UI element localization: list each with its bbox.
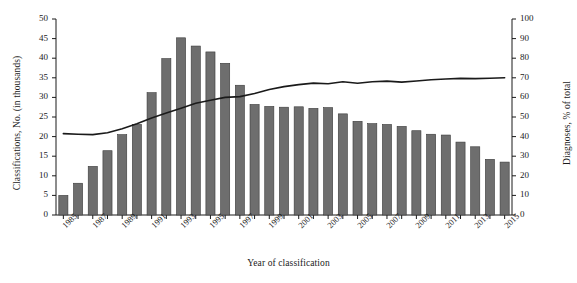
y-axis-left-tick-label: 15 xyxy=(24,150,48,160)
y-axis-right-tick-label: 80 xyxy=(520,52,546,62)
y-axis-left-tick-label: 40 xyxy=(24,52,48,62)
bar xyxy=(382,124,391,215)
bar xyxy=(412,131,421,215)
y-axis-left-tick-label: 35 xyxy=(24,72,48,82)
y-axis-left-tick-label: 45 xyxy=(24,33,48,43)
y-axis-right-tick-label: 20 xyxy=(520,170,546,180)
chart-figure: Classifications, No. (in thousands) Diag… xyxy=(0,0,577,283)
y-axis-left-tick-label: 0 xyxy=(24,209,48,219)
bar xyxy=(368,124,377,215)
bar xyxy=(132,124,141,215)
y-axis-left-tick-label: 50 xyxy=(24,13,48,23)
y-axis-right-tick-label: 30 xyxy=(520,150,546,160)
y-axis-left-tick-label: 20 xyxy=(24,131,48,141)
y-axis-left-title: Classifications, No. (in thousands) xyxy=(12,43,22,203)
bar xyxy=(485,159,494,215)
y-axis-right-tick-label: 90 xyxy=(520,33,546,43)
bar xyxy=(265,106,274,215)
chart-plot-area xyxy=(0,0,577,283)
bar xyxy=(118,135,127,215)
y-axis-right-ticks xyxy=(512,19,516,215)
y-axis-right-tick-label: 50 xyxy=(520,111,546,121)
bar xyxy=(397,126,406,215)
bar-series xyxy=(59,38,509,215)
y-axis-right-tick-label: 100 xyxy=(520,13,546,23)
y-axis-right-tick-label: 40 xyxy=(520,131,546,141)
bar xyxy=(441,135,450,215)
bar xyxy=(324,108,333,215)
bar xyxy=(309,108,318,215)
y-axis-right-tick-label: 70 xyxy=(520,72,546,82)
bar xyxy=(456,142,465,215)
bar xyxy=(250,104,259,215)
bar xyxy=(74,183,83,215)
bar xyxy=(500,162,509,215)
y-axis-left-tick-label: 25 xyxy=(24,111,48,121)
bar xyxy=(88,166,97,215)
y-axis-right-tick-label: 60 xyxy=(520,91,546,101)
bar xyxy=(471,147,480,215)
bar xyxy=(427,134,436,215)
bar xyxy=(176,38,185,215)
bar xyxy=(294,107,303,215)
bar xyxy=(353,121,362,215)
bar xyxy=(338,114,347,215)
y-axis-left-ticks xyxy=(52,19,56,215)
bar xyxy=(206,52,215,215)
x-axis-title: Year of classification xyxy=(0,258,577,268)
bar xyxy=(235,85,244,215)
y-axis-left-tick-label: 10 xyxy=(24,170,48,180)
bar xyxy=(279,107,288,215)
y-axis-right-tick-label: 0 xyxy=(520,209,546,219)
bar xyxy=(191,46,200,215)
bar xyxy=(147,93,156,215)
y-axis-right-title: Diagnoses, % of total xyxy=(562,43,572,203)
bar xyxy=(103,151,112,215)
y-axis-left-tick-label: 30 xyxy=(24,91,48,101)
bar xyxy=(162,59,171,215)
y-axis-right-tick-label: 10 xyxy=(520,189,546,199)
bar xyxy=(59,195,68,215)
y-axis-left-tick-label: 5 xyxy=(24,189,48,199)
bar xyxy=(221,63,230,215)
